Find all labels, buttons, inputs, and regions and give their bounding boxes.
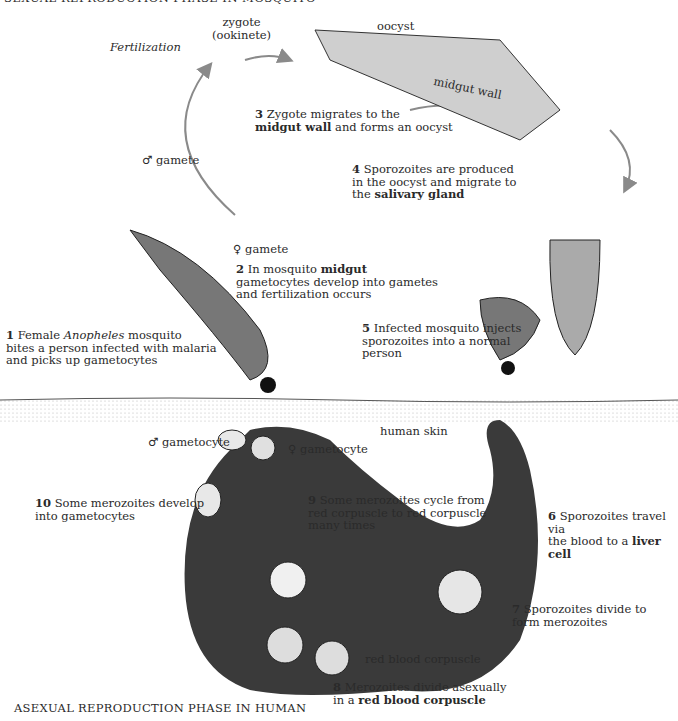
title-top: SEXUAL REPRODUCTION PHASE IN MOSQUITO	[4, 0, 316, 5]
step-9: 9 Some merozoites cycle from red corpusc…	[308, 494, 486, 532]
step-8: 8 Merozoites divide asexually in a red b…	[333, 681, 507, 706]
step-3: 3 Zygote migrates to the midgut wall and…	[255, 108, 453, 133]
label-oocyst: oocyst	[377, 20, 414, 33]
label-zygote: zygote (ookinete)	[212, 16, 271, 42]
blood-stream	[185, 420, 538, 695]
step-10: 10 Some merozoites develop into gametocy…	[35, 497, 204, 522]
step-6: 6 Sporozoites travel via the blood to a …	[548, 510, 678, 560]
step-1: 1 Female Anopheles mosquito bites a pers…	[6, 329, 217, 367]
step-4: 4 Sporozoites are produced in the oocyst…	[352, 163, 516, 201]
step-2: 2 In mosquito midgut gametocytes develop…	[236, 263, 438, 301]
label-red-blood-corpuscle: red blood corpuscle	[365, 653, 481, 666]
step-5: 5 Infected mosquito injects sporozoites …	[362, 322, 521, 360]
label-male-gamete: ♂ gamete	[142, 154, 199, 167]
label-male-gametocyte: ♂ gametocyte	[148, 436, 230, 449]
label-female-gametocyte: ♀ gametocyte	[288, 443, 368, 456]
step-7: 7 Sporozoites divide to form merozoites	[512, 603, 646, 628]
label-female-gamete: ♀ gamete	[233, 243, 288, 256]
label-human-skin: human skin	[380, 425, 448, 438]
title-bottom: ASEXUAL REPRODUCTION PHASE IN HUMAN	[14, 702, 306, 715]
label-fertilization: Fertilization	[110, 41, 181, 54]
